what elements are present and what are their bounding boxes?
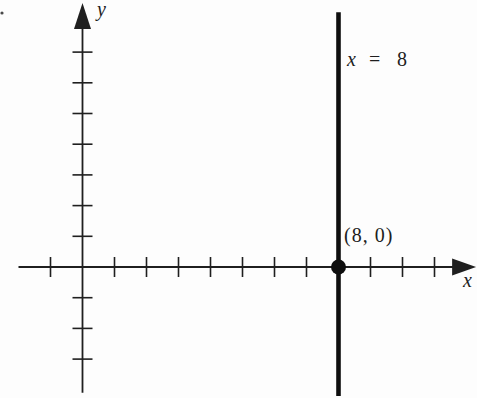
page-edge-speck bbox=[0, 11, 3, 14]
line-equation-label: x = 8 bbox=[346, 48, 407, 70]
x-axis-label: x bbox=[462, 269, 472, 291]
point-8-0 bbox=[331, 260, 346, 275]
y-axis-label: y bbox=[95, 0, 106, 21]
graph-canvas: y x x = 8 (8, 0) bbox=[0, 0, 477, 398]
equation-variable: x bbox=[346, 48, 356, 70]
coordinate-plane-figure: y x x = 8 (8, 0) bbox=[0, 0, 477, 398]
equation-value: 8 bbox=[397, 48, 407, 70]
point-coordinates-label: (8, 0) bbox=[344, 224, 393, 247]
y-axis-arrowhead-icon bbox=[74, 3, 91, 29]
equation-operator: = bbox=[369, 48, 380, 70]
plot-geometry bbox=[19, 3, 477, 396]
